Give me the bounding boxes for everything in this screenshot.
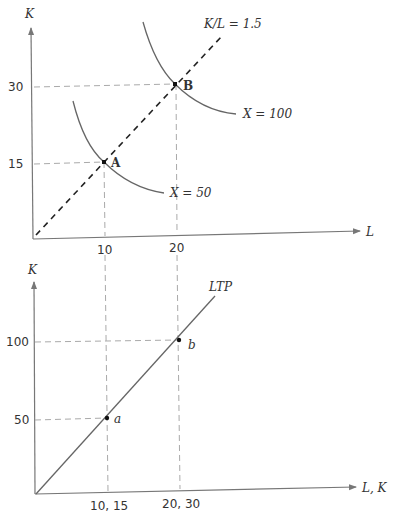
guide-v-20-30 [177,255,180,489]
isoquant-x50 [73,101,164,193]
isoquant-x100 [143,22,236,114]
isoquant-x100-label: X = 100 [242,107,292,121]
point-a-label: a [114,412,121,426]
guide-h-50 [35,418,107,420]
top-y-tick-15: 15 [8,157,23,171]
point-B-label: B [183,79,193,93]
point-B-marker [173,82,177,86]
guide-v-10-15 [105,255,108,492]
ray-label: K/L = 1.5 [203,17,262,31]
ltp-line [36,296,215,494]
top-y-axis [31,28,33,239]
top-y-tick-30: 30 [8,80,23,94]
top-x-tick-20: 20 [169,241,184,255]
bottom-y-tick-100: 100 [6,335,29,349]
top-chart: K L 30 15 10 20 K/L = 1.5 X = 50 X = 100… [8,7,374,257]
ltp-label: LTP [208,280,233,294]
point-b-label: b [188,338,196,352]
isoquant-x50-label: X = 50 [169,186,212,200]
point-A-marker [102,160,106,164]
top-x-axis [33,231,360,239]
top-y-axis-label: K [24,7,35,21]
top-x-axis-label: L [365,225,374,239]
guide-h-100 [35,340,179,342]
figure: K L 30 15 10 20 K/L = 1.5 X = 50 X = 100… [0,0,394,518]
bottom-y-axis-label: K [27,263,38,277]
bottom-x-axis-label: L, K [361,481,388,495]
bottom-x-tick-10-15: 10, 15 [90,499,128,513]
bottom-x-axis [35,487,356,494]
guide-h-15 [34,162,104,164]
bottom-chart: K L, K 100 50 10, 15 20, 30 LTP a b [6,255,388,513]
top-x-tick-10: 10 [97,243,112,257]
bottom-y-axis [34,282,35,494]
ray-k-over-l [36,36,222,235]
point-A-label: A [110,156,121,170]
guide-v-20 [176,84,177,233]
point-a-marker [105,416,109,420]
point-b-marker [177,338,181,342]
guide-v-10 [104,162,105,236]
bottom-x-tick-20-30: 20, 30 [162,497,200,511]
bottom-y-tick-50: 50 [14,413,29,427]
guide-h-30 [34,84,175,87]
